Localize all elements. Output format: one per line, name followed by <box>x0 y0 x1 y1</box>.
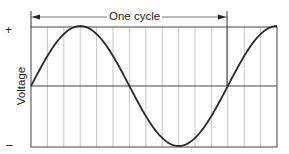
one-cycle-label: One cycle <box>107 11 162 23</box>
minus-tick-label: – <box>6 139 13 151</box>
plus-tick-label: + <box>5 24 12 36</box>
arrowhead-right-icon <box>218 15 226 20</box>
arrowhead-left-icon <box>32 15 40 20</box>
sine-wave-chart <box>0 0 289 154</box>
y-axis-label: Voltage <box>16 67 28 105</box>
